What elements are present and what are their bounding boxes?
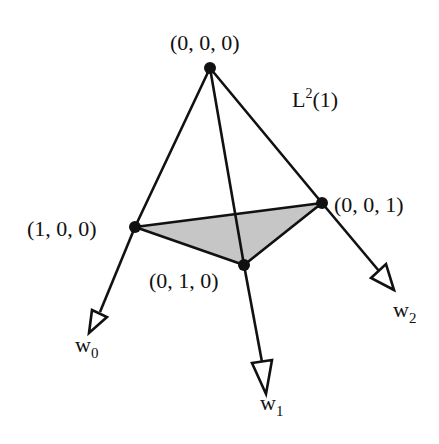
polytope-diagram: (0, 0, 0) (1, 0, 0) (0, 1, 0) (0, 0, 1) … — [0, 0, 439, 444]
arrowhead-w1-icon — [252, 360, 272, 394]
vertex-label-001: (0, 0, 1) — [334, 192, 404, 217]
vertex-label-100: (1, 0, 0) — [27, 216, 97, 241]
title-suffix: (1) — [312, 87, 338, 112]
ray-label-w0: w0 — [75, 332, 98, 361]
shaded-face — [135, 203, 322, 265]
title-base: L — [292, 87, 305, 112]
ray-label-w1-sub: 1 — [276, 403, 284, 419]
vertex-010 — [238, 259, 250, 271]
polytope-title: L2(1) — [292, 86, 338, 112]
vertex-label-010: (0, 1, 0) — [149, 268, 219, 293]
ray-label-w2-sub: 2 — [409, 310, 417, 326]
ray-label-w0-sub: 0 — [91, 345, 99, 361]
ray-label-w0-base: w — [75, 332, 91, 357]
ray-label-w1: w1 — [260, 390, 283, 419]
ray-w1 — [244, 265, 262, 362]
vertex-001 — [316, 197, 328, 209]
edge-000-100 — [135, 68, 210, 227]
ray-label-w1-base: w — [260, 390, 276, 415]
title-superscript: 2 — [305, 86, 312, 101]
arrowhead-w2-icon — [371, 264, 394, 290]
ray-label-w2: w2 — [393, 297, 416, 326]
vertex-label-000: (0, 0, 0) — [170, 30, 240, 55]
vertex-000 — [204, 62, 216, 74]
arrowhead-w0-icon — [89, 310, 107, 333]
vertex-100 — [129, 221, 141, 233]
ray-w0 — [100, 227, 135, 312]
ray-label-w2-base: w — [393, 297, 409, 322]
